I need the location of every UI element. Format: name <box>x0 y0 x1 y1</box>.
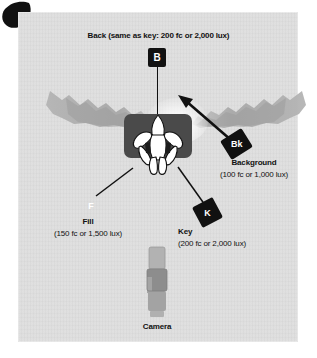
back-light-caption: Back (same as key: 200 fc or 2,000 lux) <box>0 31 317 41</box>
background-light-marker-label: Bk <box>231 139 243 149</box>
background-light-intensity: (100 fc or 1,000 lux) <box>200 170 308 180</box>
fill-light-intensity: (150 fc or 1,500 lux) <box>42 229 134 239</box>
key-light-marker-label: K <box>204 208 211 218</box>
key-light-name: Key <box>178 227 222 237</box>
lighting-diagram: Back (same as key: 200 fc or 2,000 lux) … <box>0 0 317 358</box>
back-light-marker-label: B <box>153 52 160 63</box>
subject-figure-icon <box>126 108 190 176</box>
camera-label: Camera <box>117 322 197 332</box>
back-light-marker[interactable]: B <box>148 48 166 67</box>
key-light-intensity: (200 fc or 2,000 lux) <box>178 239 278 249</box>
fill-light-marker-label-wrap: F <box>85 199 97 212</box>
fill-light-name: Fill <box>56 217 120 227</box>
camera-icon[interactable] <box>144 247 170 319</box>
fill-light-marker-label: F <box>88 201 94 211</box>
background-light-name: Background <box>206 158 302 168</box>
